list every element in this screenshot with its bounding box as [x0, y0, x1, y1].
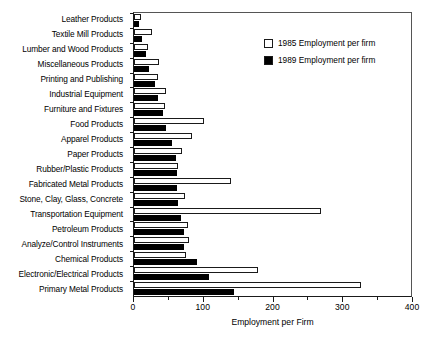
bar-1985: [134, 103, 165, 109]
bar-group: [134, 117, 411, 132]
bar-1989: [134, 170, 177, 176]
x-axis-tick-label: 0: [131, 303, 136, 312]
x-axis-tick-label: 400: [405, 303, 419, 312]
x-axis-tick-label: 100: [196, 303, 210, 312]
category-label: Miscellaneous Products: [0, 57, 128, 72]
bar-1985: [134, 148, 182, 154]
category-label: Textile Mill Products: [0, 27, 128, 42]
bar-1989: [134, 110, 163, 116]
bar-group: [134, 73, 411, 88]
bar-1989: [134, 125, 166, 131]
employment-per-firm-bar-chart: Leather Products Textile Mill Products L…: [0, 0, 433, 341]
open-square-swatch-icon: [264, 39, 273, 48]
category-label: Transportation Equipment: [0, 207, 128, 222]
bar-group: [134, 177, 411, 192]
category-label: Fabricated Metal Products: [0, 177, 128, 192]
category-label: Paper Products: [0, 147, 128, 162]
bar-1985: [134, 74, 158, 80]
bar-group: [134, 132, 411, 147]
bar-1985: [134, 14, 141, 20]
bar-group: [134, 281, 411, 296]
legend-label: 1989 Employment per firm: [278, 56, 375, 64]
x-axis-minor-tick: [307, 297, 308, 300]
bar-1989: [134, 244, 184, 250]
bar-1989: [134, 36, 142, 42]
x-axis-tick-label: 200: [265, 303, 279, 312]
bar-1985: [134, 59, 159, 65]
bar-group: [134, 266, 411, 281]
bar-1985: [134, 237, 189, 243]
bar-1989: [134, 81, 155, 87]
bar-1989: [134, 200, 178, 206]
bar-group: [134, 207, 411, 222]
bar-group: [134, 162, 411, 177]
category-label: Lumber and Wood Products: [0, 42, 128, 57]
bar-1989: [134, 140, 172, 146]
category-label: Electronic/Electrical Products: [0, 267, 128, 282]
x-axis-minor-tick: [377, 297, 378, 300]
bar-1989: [134, 289, 234, 295]
x-axis-minor-tick: [168, 297, 169, 300]
category-label: Rubber/Plastic Products: [0, 162, 128, 177]
bar-group: [134, 251, 411, 266]
bar-1985: [134, 267, 258, 273]
category-label: Printing and Publishing: [0, 72, 128, 87]
category-label: Furniture and Fixtures: [0, 102, 128, 117]
bar-1985: [134, 118, 204, 124]
category-label: Leather Products: [0, 12, 128, 27]
bar-group: [134, 192, 411, 207]
category-label: Analyze/Control Instruments: [0, 237, 128, 252]
bar-group: [134, 13, 411, 28]
bar-1989: [134, 155, 176, 161]
bar-1989: [134, 185, 177, 191]
filled-square-swatch-icon: [264, 56, 273, 65]
bar-1989: [134, 66, 149, 72]
bar-1985: [134, 178, 231, 184]
bar-1989: [134, 259, 197, 265]
legend-label: 1985 Employment per firm: [278, 39, 375, 47]
bar-group: [134, 147, 411, 162]
legend-item-1989: 1989 Employment per firm: [264, 56, 375, 65]
bar-1989: [134, 274, 209, 280]
bar-group: [134, 221, 411, 236]
bar-1989: [134, 229, 184, 235]
chart-legend: 1985 Employment per firm 1989 Employment…: [264, 39, 375, 65]
x-axis-tick-label: 300: [335, 303, 349, 312]
bar-1989: [134, 51, 146, 57]
bar-1985: [134, 163, 178, 169]
category-label: Petroleum Products: [0, 222, 128, 237]
bar-group: [134, 102, 411, 117]
bar-1989: [134, 215, 181, 221]
bar-1985: [134, 222, 188, 228]
bar-1985: [134, 29, 152, 35]
bar-1985: [134, 44, 148, 50]
bar-1985: [134, 282, 361, 288]
category-label: Food Products: [0, 117, 128, 132]
legend-item-1985: 1985 Employment per firm: [264, 39, 375, 48]
category-label: Chemical Products: [0, 252, 128, 267]
bar-1985: [134, 252, 186, 258]
bar-1985: [134, 133, 192, 139]
category-label: Stone, Clay, Glass, Concrete: [0, 192, 128, 207]
x-axis-title: Employment per Firm: [133, 318, 412, 327]
bar-1985: [134, 193, 185, 199]
x-axis-tick-labels: 0100200300400: [133, 303, 412, 315]
bar-1985: [134, 208, 321, 214]
x-axis-minor-tick: [238, 297, 239, 300]
category-axis-labels: Leather Products Textile Mill Products L…: [0, 12, 128, 297]
bar-1985: [134, 88, 166, 94]
bar-1989: [134, 95, 158, 101]
bar-1989: [134, 21, 139, 27]
bar-group: [134, 236, 411, 251]
bar-group: [134, 87, 411, 102]
category-label: Industrial Equipment: [0, 87, 128, 102]
category-label: Primary Metal Products: [0, 282, 128, 297]
category-label: Apparel Products: [0, 132, 128, 147]
